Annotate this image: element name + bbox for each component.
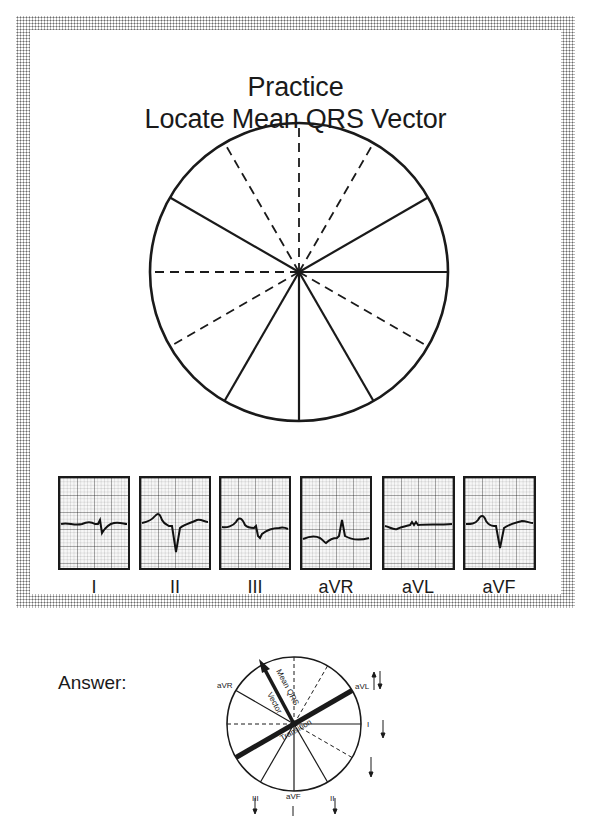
- arrow-up-down-icon-avl: [372, 671, 382, 690]
- answer-lead-avr: aVR: [217, 681, 233, 690]
- answer-lead-avl: aVL: [355, 682, 370, 691]
- vector-arrowhead-icon: [259, 659, 270, 673]
- answer-dashed-spokes: [227, 657, 352, 758]
- arrow-down-icon-i: [381, 720, 385, 738]
- answer-wheel: aVR aVL I II III aVF Mean QRS Vector Tra…: [0, 0, 591, 816]
- answer-lead-avf: aVF: [286, 792, 301, 801]
- answer-lead-iii: III: [252, 794, 259, 803]
- answer-lead-ii: II: [330, 794, 334, 803]
- arrow-down-icon-lower-right: [369, 757, 373, 777]
- answer-lead-i: I: [367, 720, 369, 729]
- answer-solid-spokes: [236, 691, 361, 792]
